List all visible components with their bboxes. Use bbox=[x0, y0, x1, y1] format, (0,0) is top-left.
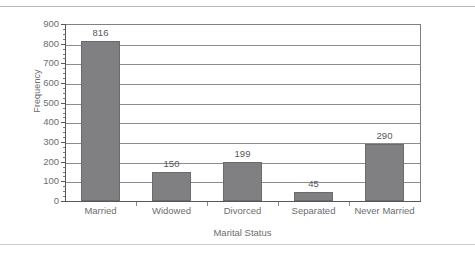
bar-chart: Frequency 9008007006005004003002001000 8… bbox=[0, 0, 475, 253]
y-minor-tick-mark bbox=[63, 58, 65, 59]
y-minor-tick-mark bbox=[63, 167, 65, 168]
figure: Frequency 9008007006005004003002001000 8… bbox=[0, 0, 475, 253]
y-minor-tick-mark bbox=[63, 39, 65, 40]
y-minor-tick-mark bbox=[63, 176, 65, 177]
y-minor-tick-mark bbox=[63, 34, 65, 35]
y-tick-label: 900 bbox=[17, 19, 59, 29]
y-minor-tick-mark bbox=[63, 29, 65, 30]
y-minor-tick-mark bbox=[63, 98, 65, 99]
x-axis-title: Marital Status bbox=[65, 227, 420, 238]
y-tick-mark bbox=[61, 44, 65, 45]
bar bbox=[223, 162, 263, 201]
y-tick-mark bbox=[61, 142, 65, 143]
y-minor-tick-mark bbox=[63, 108, 65, 109]
bar-value-label: 816 bbox=[76, 28, 126, 38]
bar-value-label: 199 bbox=[218, 149, 268, 159]
y-minor-tick-mark bbox=[63, 49, 65, 50]
x-axis-line bbox=[65, 201, 421, 202]
y-minor-tick-mark bbox=[63, 186, 65, 187]
y-tick-mark bbox=[61, 181, 65, 182]
y-tick-mark bbox=[61, 63, 65, 64]
bar bbox=[152, 172, 192, 202]
y-minor-tick-mark bbox=[63, 191, 65, 192]
y-tick-label: 0 bbox=[17, 196, 59, 206]
y-minor-tick-mark bbox=[63, 132, 65, 133]
y-minor-tick-mark bbox=[63, 117, 65, 118]
y-minor-tick-mark bbox=[63, 54, 65, 55]
y-tick-mark bbox=[61, 83, 65, 84]
y-tick-label: 100 bbox=[17, 176, 59, 186]
x-tick-label: Widowed bbox=[136, 206, 207, 216]
y-axis-line bbox=[65, 24, 66, 202]
y-minor-tick-mark bbox=[63, 137, 65, 138]
x-tick-label: Never Married bbox=[349, 206, 420, 216]
y-minor-tick-mark bbox=[63, 172, 65, 173]
x-tick-label: Divorced bbox=[207, 206, 278, 216]
y-minor-tick-mark bbox=[63, 157, 65, 158]
bar-value-label: 290 bbox=[360, 131, 410, 141]
y-minor-tick-mark bbox=[63, 93, 65, 94]
y-minor-tick-mark bbox=[63, 147, 65, 148]
y-axis-title: Frequency bbox=[32, 36, 42, 146]
y-tick-label: 700 bbox=[17, 58, 59, 68]
x-tick-label: Married bbox=[65, 206, 136, 216]
y-tick-mark bbox=[61, 201, 65, 202]
y-minor-tick-mark bbox=[63, 88, 65, 89]
y-minor-tick-mark bbox=[63, 73, 65, 74]
y-tick-label: 800 bbox=[17, 39, 59, 49]
bar-value-label: 150 bbox=[147, 159, 197, 169]
bar-value-label: 45 bbox=[289, 179, 339, 189]
y-tick-mark bbox=[61, 24, 65, 25]
y-minor-tick-mark bbox=[63, 68, 65, 69]
bar bbox=[365, 144, 405, 201]
bar bbox=[294, 192, 334, 201]
y-tick-label: 500 bbox=[17, 98, 59, 108]
y-minor-tick-mark bbox=[63, 127, 65, 128]
y-tick-label: 200 bbox=[17, 157, 59, 167]
y-minor-tick-mark bbox=[63, 196, 65, 197]
bar bbox=[81, 41, 121, 201]
x-tick-label: Separated bbox=[278, 206, 349, 216]
y-minor-tick-mark bbox=[63, 78, 65, 79]
y-minor-tick-mark bbox=[63, 152, 65, 153]
y-minor-tick-mark bbox=[63, 113, 65, 114]
y-tick-label: 400 bbox=[17, 117, 59, 127]
y-tick-label: 300 bbox=[17, 137, 59, 147]
y-tick-mark bbox=[61, 103, 65, 104]
y-tick-mark bbox=[61, 122, 65, 123]
y-tick-mark bbox=[61, 162, 65, 163]
y-tick-label: 600 bbox=[17, 78, 59, 88]
